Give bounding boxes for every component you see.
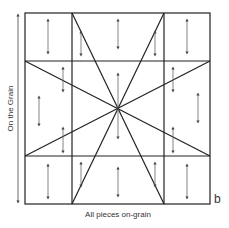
quilt-block-diagram xyxy=(0,0,229,228)
bottom-label: All pieces on-grain xyxy=(0,210,229,219)
figure-letter-b: b xyxy=(214,192,221,206)
side-label: On the Grain xyxy=(6,79,15,139)
block-grid xyxy=(25,13,210,204)
